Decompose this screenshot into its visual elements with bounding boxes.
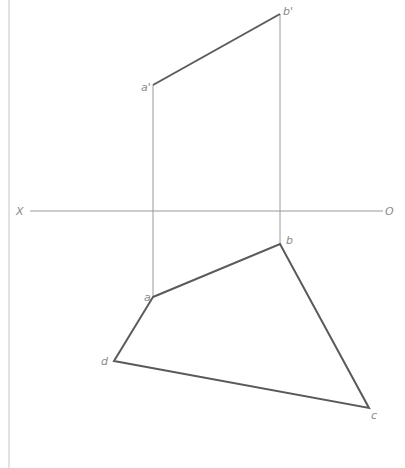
- projection-diagram: X O a' b' a b c d: [0, 0, 405, 468]
- top-view-quadrilateral: [114, 244, 369, 408]
- point-label-a: a: [144, 291, 151, 304]
- point-label-b: b: [286, 234, 293, 247]
- point-label-c: c: [371, 409, 377, 422]
- axis-label-x: X: [15, 205, 24, 218]
- axis-label-o: O: [385, 205, 394, 218]
- front-view-edge-ab: [153, 14, 280, 85]
- point-label-d: d: [101, 355, 109, 368]
- point-label-b-prime: b': [283, 5, 293, 18]
- point-label-a-prime: a': [141, 81, 151, 94]
